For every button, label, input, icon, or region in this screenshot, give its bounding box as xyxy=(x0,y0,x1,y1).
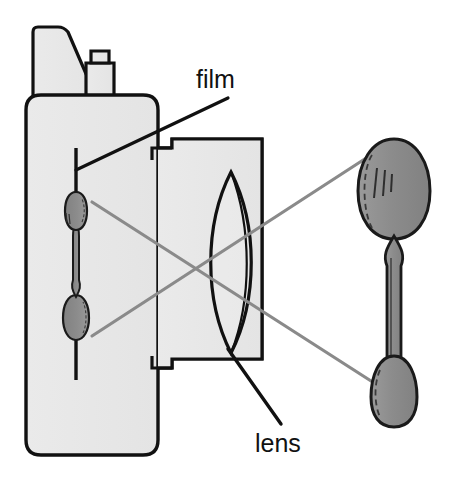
lens-label: lens xyxy=(255,429,301,457)
spoon-bowl-object xyxy=(358,139,430,239)
spoon-handle-image xyxy=(72,223,80,297)
spoon-tip-object xyxy=(371,356,417,427)
film-label: film xyxy=(196,65,235,93)
real-spoon-object xyxy=(358,139,430,427)
spoon-bowl-image xyxy=(63,295,89,340)
shutter-button-top xyxy=(91,51,109,63)
diagram-canvas: film lens xyxy=(0,0,450,479)
shutter-button-block xyxy=(86,63,114,97)
optics-diagram-figure: film lens xyxy=(0,0,450,479)
camera-body xyxy=(26,27,158,455)
camera-body-shell xyxy=(26,95,158,455)
